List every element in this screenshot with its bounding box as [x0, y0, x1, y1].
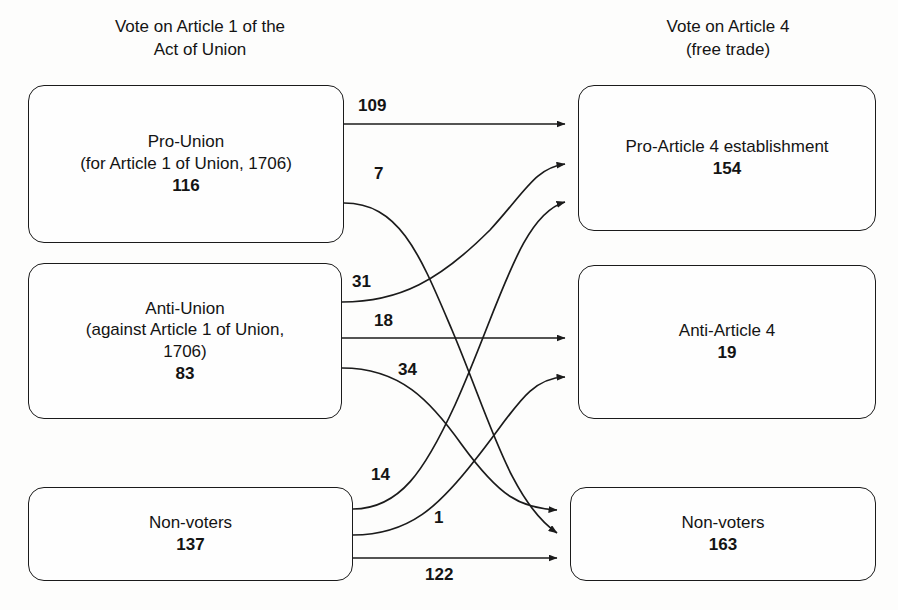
node-anti-article-4-label: Anti-Article 4	[671, 320, 783, 342]
flow-label-pro-union-to-nonvoters: 7	[374, 164, 383, 184]
flow-label-nonvoters-to-pro-a4: 14	[371, 465, 390, 485]
node-anti-union[interactable]: Anti-Union (against Article 1 of Union, …	[28, 263, 342, 419]
node-nonvoters-right[interactable]: Non-voters 163	[570, 487, 876, 581]
node-nonvoters-right-label: Non-voters	[673, 512, 772, 534]
flow-label-nonvoters-to-anti-a4: 1	[434, 508, 443, 528]
node-nonvoters-left-label: Non-voters	[141, 512, 240, 534]
flow-label-anti-union-to-nonvoters: 34	[398, 360, 417, 380]
node-anti-article-4[interactable]: Anti-Article 4 19	[578, 265, 876, 419]
flow-diagram-page: Vote on Article 1 of the Act of Union Vo…	[0, 0, 898, 610]
node-pro-union-label: Pro-Union (for Article 1 of Union, 1706)	[72, 131, 300, 175]
flow-label-pro-union-to-pro-a4: 109	[358, 96, 386, 116]
node-nonvoters-left[interactable]: Non-voters 137	[28, 487, 353, 581]
node-pro-union[interactable]: Pro-Union (for Article 1 of Union, 1706)…	[28, 85, 344, 243]
node-pro-article-4[interactable]: Pro-Article 4 establishment 154	[578, 85, 876, 231]
flow-label-anti-union-to-pro-a4: 31	[352, 272, 371, 292]
flow-path-nonvoters-to-pro-a4	[353, 202, 565, 509]
node-pro-union-value: 116	[172, 175, 199, 197]
node-nonvoters-right-value: 163	[709, 534, 737, 556]
node-pro-article-4-value: 154	[713, 158, 741, 180]
flow-path-nonvoters-to-anti-a4	[353, 377, 565, 535]
node-nonvoters-left-value: 137	[176, 534, 204, 556]
node-pro-article-4-label: Pro-Article 4 establishment	[617, 136, 836, 158]
node-anti-union-value: 83	[176, 363, 195, 385]
flow-label-anti-union-to-anti-a4: 18	[374, 311, 393, 331]
node-anti-article-4-value: 19	[718, 342, 737, 364]
flow-label-nonvoters-to-nonvoters: 122	[425, 565, 453, 585]
node-anti-union-label: Anti-Union (against Article 1 of Union, …	[78, 298, 292, 363]
flow-path-anti-union-to-pro-a4	[342, 164, 565, 302]
flow-path-anti-union-to-nonvoters	[342, 368, 557, 510]
